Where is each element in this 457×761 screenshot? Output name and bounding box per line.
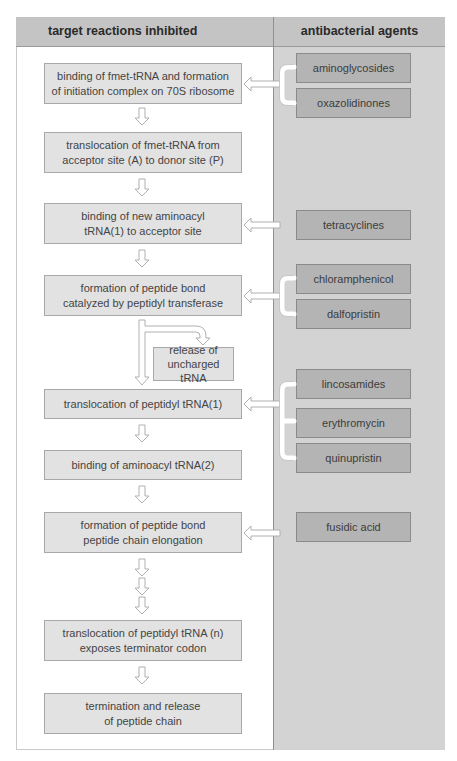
step-text: formation of peptide bond bbox=[63, 281, 223, 296]
column-header-antibacterial-agents: antibacterial agents bbox=[273, 17, 445, 47]
step-text: catalyzed by peptidyl transferase bbox=[63, 296, 223, 311]
step-text: translocation of peptidyl tRNA(1) bbox=[64, 397, 222, 412]
step-text: peptide chain elongation bbox=[81, 533, 206, 548]
step-text: termination and release bbox=[86, 699, 201, 714]
step-text: tRNA(1) to acceptor site bbox=[81, 224, 205, 239]
side-step-text: uncharged tRNA bbox=[154, 357, 233, 385]
agent-oxazolidinones: oxazolidinones bbox=[296, 88, 411, 118]
agent-chloramphenicol: chloramphenicol bbox=[296, 264, 411, 294]
agent-aminoglycosides: aminoglycosides bbox=[296, 53, 411, 83]
step-text: formation of peptide bond bbox=[81, 518, 206, 533]
step-initiation-complex: binding of fmet-tRNA and formationof ini… bbox=[44, 63, 242, 104]
step-text: exposes terminator codon bbox=[63, 641, 224, 656]
agent-quinupristin: quinupristin bbox=[296, 443, 411, 473]
agent-fusidic-acid: fusidic acid bbox=[296, 512, 411, 542]
step-termination-release: termination and releaseof peptide chain bbox=[44, 693, 242, 734]
step-text: translocation of peptidyl tRNA (n) bbox=[63, 626, 224, 641]
step-binding-aminoacyl-2: binding of aminoacyl tRNA(2) bbox=[44, 450, 242, 480]
column-header-target-reactions: target reactions inhibited bbox=[16, 17, 273, 47]
step-binding-aminoacyl-1: binding of new aminoacyltRNA(1) to accep… bbox=[44, 203, 242, 244]
side-step-text: release of bbox=[154, 343, 233, 357]
step-text: translocation of fmet-tRNA from bbox=[62, 138, 223, 153]
step-text: of initiation complex on 70S ribosome bbox=[52, 84, 235, 99]
step-text: acceptor site (A) to donor site (P) bbox=[62, 153, 223, 168]
step-translocation-peptidyl-1: translocation of peptidyl tRNA(1) bbox=[44, 389, 242, 419]
step-text: of peptide chain bbox=[86, 714, 201, 729]
agent-dalfopristin: dalfopristin bbox=[296, 299, 411, 329]
side-step-release-tRNA: release ofuncharged tRNA bbox=[153, 347, 234, 381]
step-translocation-fmet: translocation of fmet-tRNA fromacceptor … bbox=[44, 132, 242, 173]
step-text: binding of new aminoacyl bbox=[81, 209, 205, 224]
step-text: binding of fmet-tRNA and formation bbox=[52, 69, 235, 84]
step-peptide-bond-transferase: formation of peptide bondcatalyzed by pe… bbox=[44, 275, 242, 316]
step-peptide-chain-elongation: formation of peptide bondpeptide chain e… bbox=[44, 512, 242, 553]
step-text: binding of aminoacyl tRNA(2) bbox=[71, 458, 214, 473]
agent-tetracyclines: tetracyclines bbox=[296, 210, 411, 240]
step-terminator-codon: translocation of peptidyl tRNA (n)expose… bbox=[44, 620, 242, 661]
agent-lincosamides: lincosamides bbox=[296, 369, 411, 399]
agent-erythromycin: erythromycin bbox=[296, 408, 411, 438]
